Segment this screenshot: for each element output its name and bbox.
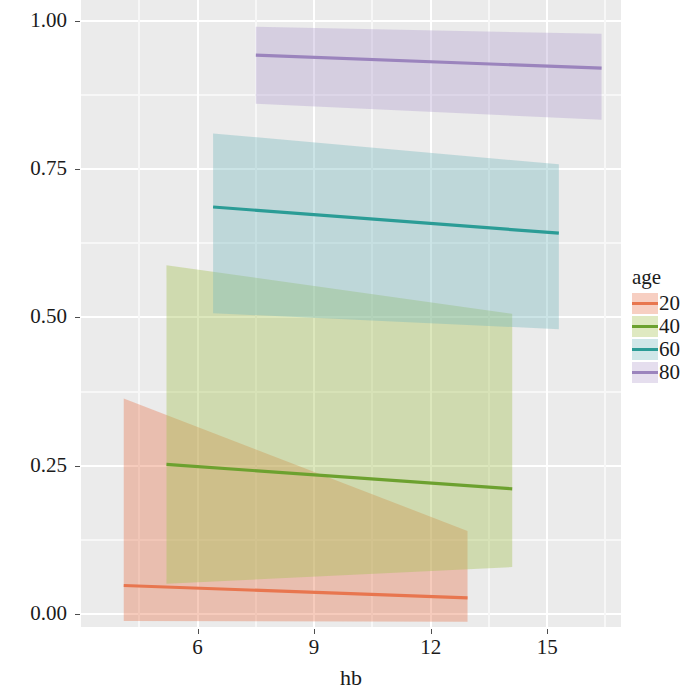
line-age-80: [256, 55, 602, 68]
legend-items: 20406080: [632, 292, 682, 384]
x-axis-tick-mark: [431, 629, 432, 634]
prediction-lines: [81, 0, 621, 627]
y-axis-tick-mark: [75, 614, 80, 615]
plot-panel: [81, 0, 621, 627]
legend-key-swatch: [632, 293, 658, 314]
legend-item-age-20[interactable]: 20: [632, 292, 682, 315]
legend-key-swatch: [632, 362, 658, 383]
legend: age 20406080: [632, 265, 682, 384]
y-axis-tick-mark: [75, 169, 80, 170]
y-axis-tick-label: 0.50: [3, 306, 67, 327]
x-axis-tick-label: 15: [517, 637, 577, 658]
y-axis-tick-mark: [75, 21, 80, 22]
legend-line-swatch: [632, 325, 658, 328]
y-axis-tick-label: 1.00: [3, 10, 67, 31]
chart-root: Predictedprob 0.000.250.500.751.00 69121…: [0, 0, 682, 697]
legend-item-age-40[interactable]: 40: [632, 315, 682, 338]
legend-item-age-60[interactable]: 60: [632, 338, 682, 361]
x-axis-tick-label: 9: [284, 637, 344, 658]
legend-line-swatch: [632, 348, 658, 351]
legend-line-swatch: [632, 371, 658, 374]
y-axis-tick-mark: [75, 466, 80, 467]
line-age-60: [213, 207, 559, 233]
legend-key-swatch: [632, 339, 658, 360]
x-axis-tick-mark: [314, 629, 315, 634]
x-axis-tick-label: 6: [168, 637, 228, 658]
legend-title: age: [632, 265, 682, 289]
x-axis-tick-mark: [198, 629, 199, 634]
legend-item-label: 20: [659, 293, 680, 314]
legend-item-label: 40: [659, 316, 680, 337]
line-age-40: [166, 464, 512, 488]
x-axis-tick-label: 12: [401, 637, 461, 658]
legend-item-label: 60: [659, 339, 680, 360]
y-axis-tick-label: 0.00: [3, 603, 67, 624]
legend-key-swatch: [632, 316, 658, 337]
y-axis-tick-label: 0.25: [3, 455, 67, 476]
y-axis-tick-mark: [75, 317, 80, 318]
legend-item-age-80[interactable]: 80: [632, 361, 682, 384]
legend-item-label: 80: [659, 362, 680, 383]
y-axis-tick-label: 0.75: [3, 158, 67, 179]
x-axis-tick-mark: [547, 629, 548, 634]
line-age-20: [124, 585, 468, 597]
legend-line-swatch: [632, 302, 658, 305]
x-axis-label: hb: [81, 665, 621, 691]
